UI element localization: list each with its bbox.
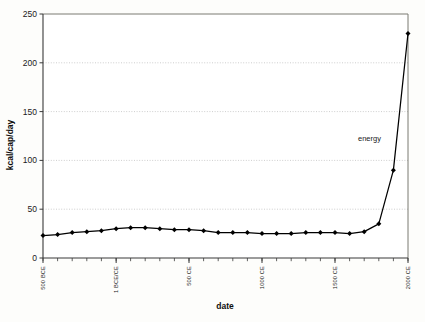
x-tick-label: 1000 CE xyxy=(259,266,265,289)
y-tick-label: 150 xyxy=(23,107,37,117)
x-axis-title: date xyxy=(216,301,234,311)
y-tick-label: 250 xyxy=(23,9,37,19)
x-tick-label: 1500 CE xyxy=(332,266,338,289)
y-axis-title: kcal/cap/day xyxy=(5,119,15,170)
y-tick-label: 100 xyxy=(23,155,37,165)
x-tick-label: 500 CE xyxy=(186,266,192,286)
series-annotation-energy: energy xyxy=(358,134,381,143)
x-tick-label: 2000 CE xyxy=(405,266,411,289)
x-tick-label: 500 BCE xyxy=(40,266,46,290)
line-chart: 050100150200250 500 BCE1 BCE/CE500 CE100… xyxy=(0,0,425,322)
y-tick-label: 0 xyxy=(32,253,37,263)
y-tick-label: 50 xyxy=(28,204,38,214)
y-tick-label: 200 xyxy=(23,58,37,68)
plot-area-background xyxy=(43,14,408,258)
chart-figure: 050100150200250 500 BCE1 BCE/CE500 CE100… xyxy=(0,0,425,322)
x-tick-label: 1 BCE/CE xyxy=(113,266,119,293)
